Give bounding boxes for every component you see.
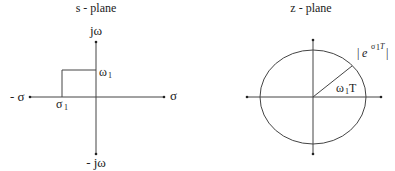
- radius-magnitude-label: | e σ 1 T |: [357, 42, 388, 60]
- omega1-label: ω 1: [99, 65, 112, 80]
- svg-text:e: e: [362, 46, 368, 60]
- z-plane-real-axis-right-arrow-icon: [380, 96, 383, 99]
- svg-text:1: 1: [64, 103, 68, 112]
- svg-text:ω: ω: [99, 65, 107, 79]
- neg-j-omega-label: - jω: [86, 155, 106, 170]
- svg-text:|: |: [386, 46, 388, 60]
- svg-text:T: T: [349, 81, 357, 95]
- s-plane-point-marker-lines: [62, 70, 96, 97]
- z-plane-real-axis-left-arrow-icon: [246, 96, 249, 99]
- s-plane-imag-axis-top-arrow-icon: [95, 41, 98, 44]
- s-plane-title: s - plane: [76, 1, 117, 15]
- z-plane-title: z - plane: [290, 1, 331, 15]
- s-plane-real-axis-right-arrow-icon: [163, 96, 166, 99]
- z-plane-imag-axis-bottom-arrow-icon: [312, 153, 315, 156]
- svg-text:|: |: [357, 46, 359, 60]
- neg-sigma-label: - σ: [10, 89, 25, 104]
- j-omega-label: jω: [89, 23, 103, 38]
- sigma-label: σ: [170, 88, 177, 103]
- z-plane: z - plane ω 1 T | e σ 1 T |: [246, 1, 389, 155]
- svg-text:1: 1: [108, 71, 112, 80]
- s-plane: s - plane jω - jω - σ σ ω 1 σ 1: [10, 1, 177, 170]
- s-plane-real-axis-left-arrow-icon: [29, 96, 32, 99]
- s-to-z-plane-mapping-diagram: s - plane jω - jω - σ σ ω 1 σ 1 z - plan…: [0, 0, 395, 171]
- z-plane-imag-axis-top-arrow-icon: [312, 39, 315, 42]
- svg-text:T: T: [380, 42, 385, 51]
- svg-text:ω: ω: [336, 81, 344, 95]
- omega1-t-angle-label: ω 1 T: [336, 81, 357, 96]
- sigma1-label: σ 1: [56, 97, 68, 112]
- svg-text:σ: σ: [56, 97, 63, 111]
